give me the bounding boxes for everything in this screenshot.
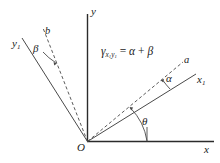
y-axis-label: y	[91, 6, 96, 17]
origin-label: O	[77, 142, 85, 153]
shear-strain-diagram: y x O x1 y1 a b α β θ γx1y1 = α + β	[0, 0, 220, 163]
beta-angle-arc	[43, 52, 56, 63]
equation-subscript: x1y1	[106, 50, 117, 59]
equation-alpha: α	[129, 45, 135, 57]
equation-beta: β	[147, 45, 153, 57]
diagram-canvas	[0, 0, 220, 163]
shear-strain-equation: γx1y1 = α + β	[101, 46, 153, 60]
y1-subscript: 1	[17, 43, 21, 51]
rotated-x1-axis-line	[88, 74, 197, 142]
x1-subscript: 1	[202, 79, 206, 87]
equation-equals: =	[120, 45, 127, 57]
theta-angle-label: θ	[142, 116, 147, 127]
equation-plus: +	[138, 45, 145, 57]
alpha-angle-label: α	[166, 73, 172, 84]
dashed-line-b-label: b	[45, 26, 50, 37]
dashed-line-b	[43, 28, 88, 142]
rotated-y1-axis-label: y1	[12, 38, 20, 51]
beta-angle-label: β	[33, 43, 38, 54]
rotated-x1-axis-label: x1	[197, 74, 205, 87]
rotated-y1-axis-line	[22, 38, 88, 142]
x-axis-label: x	[204, 144, 209, 155]
dashed-line-a-label: a	[184, 55, 189, 66]
